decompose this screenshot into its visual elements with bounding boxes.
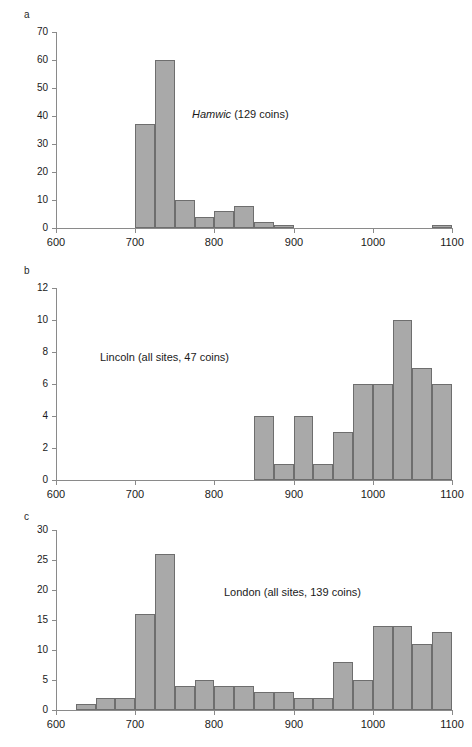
x-tick bbox=[214, 481, 215, 485]
histogram-bar bbox=[274, 692, 294, 710]
histogram-bar bbox=[333, 662, 353, 710]
y-tick-label: 0 bbox=[20, 223, 48, 233]
series-label-rest: London (all sites, 139 coins) bbox=[224, 586, 361, 598]
histogram-bar bbox=[333, 432, 353, 480]
y-tick-label: 4 bbox=[20, 411, 48, 421]
x-tick-label: 1000 bbox=[353, 237, 393, 248]
histogram-bar bbox=[214, 686, 234, 710]
histogram-bar bbox=[195, 217, 214, 228]
histogram-bar bbox=[432, 384, 452, 480]
histogram-bar bbox=[254, 692, 274, 710]
x-tick bbox=[373, 711, 374, 715]
histogram-bar bbox=[274, 464, 294, 480]
x-tick-label: 900 bbox=[274, 489, 314, 500]
x-tick-label: 700 bbox=[115, 237, 155, 248]
series-label-rest: Lincoln (all sites, 47 coins) bbox=[100, 351, 229, 363]
x-tick-label: 1100 bbox=[432, 237, 472, 248]
x-tick bbox=[56, 481, 57, 485]
histogram-bar bbox=[373, 384, 393, 480]
series-label: Hamwic (129 coins) bbox=[192, 108, 289, 120]
histogram-bar bbox=[175, 686, 195, 710]
histogram-bar bbox=[313, 464, 333, 480]
histogram-bar bbox=[155, 554, 175, 710]
histogram-bar bbox=[234, 206, 254, 228]
histogram-bar bbox=[155, 60, 175, 228]
histogram-bar bbox=[432, 632, 452, 710]
y-tick bbox=[52, 530, 56, 531]
histogram-bar bbox=[353, 384, 373, 480]
y-axis-line bbox=[56, 530, 57, 711]
y-tick-label: 2 bbox=[20, 443, 48, 453]
y-tick-label: 40 bbox=[20, 111, 48, 121]
y-tick bbox=[52, 560, 56, 561]
y-tick-label: 8 bbox=[20, 347, 48, 357]
panel-letter-b: b bbox=[24, 266, 30, 276]
panel-letter-c: c bbox=[24, 512, 29, 522]
x-axis-line bbox=[56, 480, 453, 481]
y-tick bbox=[52, 590, 56, 591]
y-tick bbox=[52, 710, 56, 711]
y-tick-label: 12 bbox=[20, 283, 48, 293]
x-tick bbox=[452, 481, 453, 485]
y-tick bbox=[52, 288, 56, 289]
histogram-bar bbox=[313, 698, 333, 710]
y-tick bbox=[52, 172, 56, 173]
y-tick bbox=[52, 384, 56, 385]
y-tick bbox=[52, 448, 56, 449]
histogram-bar bbox=[254, 222, 274, 228]
y-tick-label: 0 bbox=[20, 705, 48, 715]
y-tick bbox=[52, 116, 56, 117]
histogram-bar bbox=[412, 368, 432, 480]
y-tick bbox=[52, 680, 56, 681]
x-tick bbox=[373, 481, 374, 485]
x-tick bbox=[294, 711, 295, 715]
y-tick bbox=[52, 650, 56, 651]
histogram-bar bbox=[393, 320, 412, 480]
histogram-bar bbox=[393, 626, 412, 710]
y-tick bbox=[52, 416, 56, 417]
series-label-italic: Hamwic bbox=[192, 108, 231, 120]
histogram-bar bbox=[76, 704, 96, 710]
y-tick-label: 25 bbox=[20, 555, 48, 565]
y-tick-label: 10 bbox=[20, 195, 48, 205]
x-tick bbox=[56, 229, 57, 233]
x-tick-label: 1000 bbox=[353, 489, 393, 500]
panel-a: a01020304050607060070080090010001100Hamw… bbox=[0, 0, 472, 747]
histogram-bar bbox=[175, 200, 195, 228]
y-tick-label: 10 bbox=[20, 315, 48, 325]
x-tick-label: 800 bbox=[194, 237, 234, 248]
x-tick bbox=[135, 711, 136, 715]
y-tick-label: 5 bbox=[20, 675, 48, 685]
y-axis-line bbox=[56, 32, 57, 229]
histogram-bar bbox=[373, 626, 393, 710]
y-tick bbox=[52, 480, 56, 481]
y-tick bbox=[52, 60, 56, 61]
x-tick bbox=[452, 711, 453, 715]
y-tick bbox=[52, 320, 56, 321]
x-tick-label: 800 bbox=[194, 489, 234, 500]
histogram-bar bbox=[254, 416, 274, 480]
x-tick bbox=[135, 229, 136, 233]
y-tick bbox=[52, 88, 56, 89]
y-tick-label: 20 bbox=[20, 585, 48, 595]
x-tick-label: 700 bbox=[115, 489, 155, 500]
y-tick-label: 0 bbox=[20, 475, 48, 485]
x-tick-label: 1000 bbox=[353, 719, 393, 730]
x-tick-label: 800 bbox=[194, 719, 234, 730]
panel-b: b02468101260070080090010001100Lincoln (a… bbox=[0, 0, 472, 747]
x-tick-label: 600 bbox=[36, 237, 76, 248]
x-tick bbox=[56, 711, 57, 715]
x-tick-label: 600 bbox=[36, 489, 76, 500]
y-tick-label: 50 bbox=[20, 83, 48, 93]
series-label-rest: (129 coins) bbox=[231, 108, 288, 120]
x-tick bbox=[373, 229, 374, 233]
y-tick-label: 70 bbox=[20, 27, 48, 37]
y-tick-label: 30 bbox=[20, 525, 48, 535]
histogram-bar bbox=[115, 698, 135, 710]
panel-c: c05101520253060070080090010001100London … bbox=[0, 0, 472, 747]
x-tick bbox=[135, 481, 136, 485]
y-tick-label: 30 bbox=[20, 139, 48, 149]
x-tick-label: 900 bbox=[274, 237, 314, 248]
x-tick-label: 1100 bbox=[432, 719, 472, 730]
y-tick bbox=[52, 352, 56, 353]
